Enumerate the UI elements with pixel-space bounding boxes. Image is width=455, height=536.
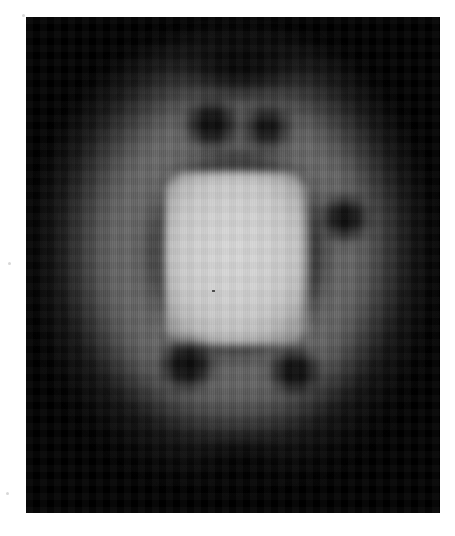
scan-image-panel	[26, 17, 440, 513]
dark-spot-lower-left	[161, 342, 213, 388]
dark-spot-right	[323, 197, 367, 239]
diffuse-halo-layer	[26, 17, 440, 513]
page-artifact-speck	[22, 14, 25, 17]
core-speck-artifact	[212, 290, 215, 292]
dark-gap-top-region	[176, 39, 306, 91]
corner-vignette	[26, 17, 440, 513]
dark-spot-top-right	[244, 107, 290, 147]
scan-page	[0, 0, 455, 536]
dark-spot-top-left	[186, 102, 238, 146]
dark-band-bottom	[194, 447, 290, 497]
halo-body-layer	[42, 35, 424, 487]
page-artifact-speck	[6, 492, 9, 495]
page-artifact-speck	[8, 262, 11, 265]
bright-core-glow	[152, 157, 318, 353]
voxel-grid-texture	[26, 17, 440, 513]
scanline-texture	[26, 17, 440, 513]
dark-spot-lower-right	[271, 350, 319, 392]
dark-annulus-layer	[144, 145, 330, 361]
bright-core	[165, 172, 307, 345]
